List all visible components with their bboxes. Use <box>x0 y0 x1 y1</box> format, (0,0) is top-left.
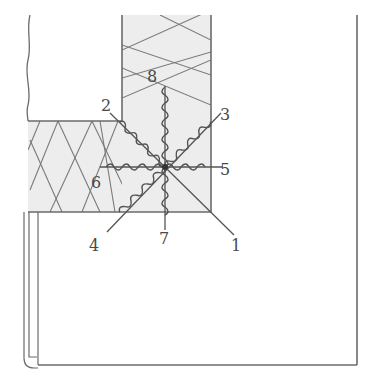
label-1: 1 <box>231 236 241 255</box>
label-6: 6 <box>91 173 101 192</box>
corner-insulation-diagram: 1 2 3 4 5 6 7 8 <box>0 0 366 379</box>
label-8: 8 <box>147 67 157 86</box>
break-line <box>27 15 30 121</box>
label-2: 2 <box>101 96 111 115</box>
label-3: 3 <box>220 105 230 124</box>
label-4: 4 <box>89 236 99 255</box>
center-knot <box>162 164 168 170</box>
label-5: 5 <box>220 160 230 179</box>
edge-trim <box>24 212 38 368</box>
insulation-body <box>28 15 211 212</box>
label-7: 7 <box>159 229 169 248</box>
